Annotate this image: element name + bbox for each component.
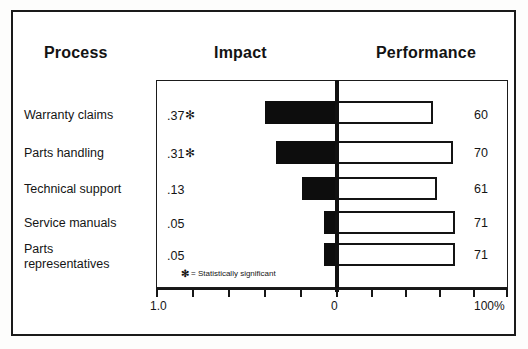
- x-axis-line: [156, 288, 508, 290]
- axis-label-center: 0: [331, 299, 338, 313]
- performance-value-service-manuals: 71: [474, 216, 488, 230]
- performance-bar-warranty-claims: [337, 101, 433, 124]
- impact-bar-technical-support: [302, 177, 337, 200]
- axis-label-left: 1.0: [150, 299, 167, 313]
- axis-tick: [371, 290, 373, 297]
- axis-tick: [506, 290, 508, 297]
- asterisk-icon: ✻: [181, 268, 191, 279]
- performance-bar-service-manuals: [337, 211, 455, 234]
- significance-star-parts-representatives: [184, 248, 185, 262]
- axis-tick: [405, 290, 407, 297]
- significance-star-warranty-claims: ✻: [184, 108, 195, 122]
- impact-number-technical-support: .13: [167, 183, 184, 197]
- impact-value-parts-representatives: .05: [167, 248, 185, 263]
- performance-value-parts-handling: 70: [474, 146, 488, 160]
- process-label-parts-representatives-line1: Parts: [24, 242, 53, 256]
- performance-bar-parts-representatives: [337, 243, 455, 266]
- axis-tick: [156, 290, 158, 297]
- significance-footnote-text: = Statistically significant: [191, 269, 276, 278]
- process-label-parts-representatives-line2: representatives: [24, 257, 109, 271]
- performance-value-parts-representatives: 71: [474, 248, 488, 262]
- impact-number-parts-representatives: .05: [167, 249, 184, 263]
- zero-axis-line: [335, 80, 339, 292]
- performance-bar-parts-handling: [337, 141, 453, 164]
- axis-tick: [300, 290, 302, 297]
- figure-container: Process Impact Performance Warranty clai…: [0, 0, 528, 349]
- significance-star-technical-support: [184, 182, 185, 196]
- impact-value-parts-handling: .31✻: [167, 146, 195, 161]
- significance-star-parts-handling: ✻: [184, 146, 195, 160]
- axis-tick: [439, 290, 441, 297]
- impact-value-technical-support: .13: [167, 182, 185, 197]
- column-header-process: Process: [44, 44, 108, 62]
- impact-value-warranty-claims: .37✻: [167, 108, 195, 123]
- impact-bar-warranty-claims: [265, 101, 337, 124]
- impact-value-service-manuals: .05: [167, 216, 185, 231]
- process-label-technical-support: Technical support: [24, 182, 121, 196]
- impact-number-service-manuals: .05: [167, 217, 184, 231]
- significance-star-service-manuals: [184, 216, 185, 230]
- significance-footnote: ✻= Statistically significant: [181, 268, 276, 279]
- process-label-warranty-claims: Warranty claims: [24, 108, 113, 122]
- process-label-service-manuals: Service manuals: [24, 216, 116, 230]
- performance-bar-technical-support: [337, 177, 437, 200]
- impact-number-warranty-claims: .37: [167, 109, 184, 123]
- axis-tick: [264, 290, 266, 297]
- column-header-impact: Impact: [214, 44, 267, 62]
- process-label-parts-handling: Parts handling: [24, 146, 104, 160]
- axis-tick: [228, 290, 230, 297]
- impact-bar-parts-handling: [276, 141, 337, 164]
- performance-value-warranty-claims: 60: [474, 108, 488, 122]
- axis-tick: [336, 290, 338, 297]
- axis-label-right: 100%: [474, 299, 505, 313]
- axis-tick: [192, 290, 194, 297]
- impact-number-parts-handling: .31: [167, 147, 184, 161]
- axis-tick: [473, 290, 475, 297]
- performance-value-technical-support: 61: [474, 182, 488, 196]
- column-header-performance: Performance: [376, 44, 476, 62]
